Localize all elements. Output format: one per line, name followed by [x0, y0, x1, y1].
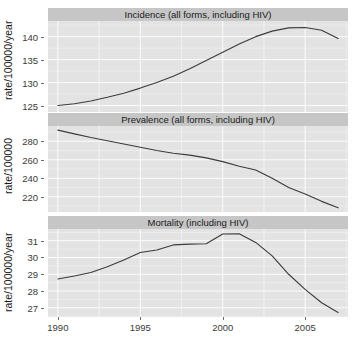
x-tick-label: 2000 — [212, 322, 233, 333]
x-tick-label: 1995 — [130, 322, 151, 333]
y-tick-label: 240 — [22, 173, 38, 184]
y-tick-label: 220 — [22, 191, 38, 202]
x-tick-label: 1990 — [47, 322, 68, 333]
y-tick-labels-incidence: 125130135140 — [18, 10, 44, 110]
y-axis-label-prevalence: rate/100000 — [2, 120, 16, 212]
gridlines-prevalence — [48, 126, 348, 212]
x-tick-mark — [305, 317, 306, 320]
y-tick-mark — [41, 291, 44, 292]
y-tick-label: 135 — [22, 54, 38, 65]
mortality-plot-svg — [48, 229, 348, 317]
y-tick-mark — [41, 178, 44, 179]
strip-label-incidence: Incidence (all forms, including HIV) — [48, 8, 348, 21]
strip-label-mortality: Mortality (including HIV) — [48, 216, 348, 229]
x-tick-mark — [223, 317, 224, 320]
y-tick-labels-prevalence: 220240260280 — [18, 115, 44, 212]
y-tick-mark — [41, 160, 44, 161]
y-tick-label: 140 — [22, 31, 38, 42]
y-tick-mark — [41, 83, 44, 84]
y-tick-mark — [41, 257, 44, 258]
y-tick-label: 125 — [22, 100, 38, 111]
gridlines-incidence — [48, 21, 348, 112]
facet-mortality: Mortality (including HIV) — [48, 216, 348, 317]
y-tick-label: 280 — [22, 136, 38, 147]
y-tick-mark — [41, 141, 44, 142]
gridlines-mortality — [48, 229, 348, 317]
y-tick-mark — [41, 106, 44, 107]
mortality-line — [58, 234, 338, 313]
y-tick-label: 31 — [27, 235, 38, 246]
x-axis: 1990199520002005 — [48, 317, 348, 339]
x-tick-mark — [140, 317, 141, 320]
y-tick-mark — [41, 37, 44, 38]
y-tick-label: 260 — [22, 154, 38, 165]
y-tick-mark — [41, 308, 44, 309]
incidence-plot-svg — [48, 21, 348, 112]
panel-mortality — [48, 229, 348, 317]
y-tick-label: 27 — [27, 302, 38, 313]
y-tick-label: 28 — [27, 286, 38, 297]
y-tick-label: 30 — [27, 252, 38, 263]
panel-prevalence — [48, 126, 348, 212]
prevalence-plot-svg — [48, 126, 348, 212]
y-axis-label-mortality: rate/100000/year — [2, 222, 16, 322]
panel-incidence — [48, 21, 348, 112]
y-tick-mark — [41, 60, 44, 61]
y-tick-mark — [41, 197, 44, 198]
y-axis-label-incidence: rate/100000/year — [2, 10, 16, 110]
x-tick-mark — [58, 317, 59, 320]
y-tick-label: 130 — [22, 77, 38, 88]
facet-prevalence: Prevalence (all forms, including HIV) — [48, 113, 348, 212]
y-tick-mark — [41, 241, 44, 242]
x-tick-label: 2005 — [295, 322, 316, 333]
figure-canvas: rate/100000/year 125130135140 Incidence … — [0, 0, 354, 340]
facet-incidence: Incidence (all forms, including HIV) — [48, 8, 348, 112]
y-tick-mark — [41, 274, 44, 275]
strip-label-prevalence: Prevalence (all forms, including HIV) — [48, 113, 348, 126]
y-tick-labels-mortality: 2728293031 — [18, 218, 44, 317]
y-tick-label: 29 — [27, 269, 38, 280]
